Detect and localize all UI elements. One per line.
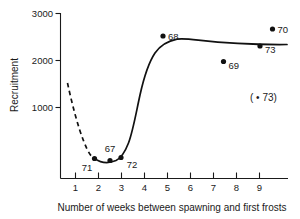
data-point-71[interactable]: 71 [82, 156, 97, 173]
data-dot-69[interactable] [221, 59, 226, 64]
data-label-70: 70 [278, 24, 289, 35]
x-tick-label-8: 8 [234, 182, 239, 193]
data-point-67[interactable]: 67 [105, 143, 116, 163]
data-label-69: 69 [229, 60, 240, 71]
x-tick-label-1: 1 [73, 182, 78, 193]
recruitment-scatter-chart: 3000 2000 1000 Recruitment 1 2 3 4 5 6 7 [0, 0, 300, 219]
data-dot-68[interactable] [160, 33, 165, 38]
y-axis-tick-labels: 3000 2000 1000 [32, 8, 53, 113]
y-tick-label-1000: 1000 [32, 102, 53, 113]
data-label-67: 67 [105, 143, 116, 154]
data-point-72[interactable]: 72 [118, 155, 137, 170]
chart-figure: 3000 2000 1000 Recruitment 1 2 3 4 5 6 7 [0, 0, 300, 219]
x-tick-label-9: 9 [257, 182, 262, 193]
data-point-68[interactable]: 68 [160, 31, 178, 42]
y-tick-label-3000: 3000 [32, 8, 53, 19]
annotation-text-73: ( • 73) [250, 92, 277, 103]
x-tick-label-5: 5 [165, 182, 170, 193]
data-dot-67[interactable] [107, 158, 112, 163]
y-axis-ticks [56, 14, 61, 108]
x-tick-label-6: 6 [188, 182, 193, 193]
data-label-72: 72 [127, 159, 138, 170]
data-point-70[interactable]: 70 [270, 24, 288, 35]
x-tick-label-4: 4 [142, 182, 147, 193]
x-axis-title: Number of weeks between spawning and fir… [58, 202, 287, 213]
data-point-73[interactable]: 73 [257, 43, 275, 55]
data-dot-70[interactable] [270, 26, 275, 31]
data-label-68: 68 [168, 31, 179, 42]
data-point-69[interactable]: 69 [221, 59, 239, 71]
data-label-71: 71 [82, 162, 93, 173]
data-dot-71[interactable] [92, 156, 97, 161]
x-tick-label-7: 7 [211, 182, 216, 193]
annotation-parenthesised-73: ( • 73) [250, 92, 277, 103]
y-tick-label-2000: 2000 [32, 55, 53, 66]
x-axis-ticks [76, 173, 260, 179]
x-axis-tick-labels: 1 2 3 4 5 6 7 8 9 [73, 182, 262, 193]
x-tick-label-2: 2 [96, 182, 101, 193]
data-dot-72[interactable] [118, 155, 123, 160]
y-axis-title: Recruitment [9, 58, 20, 112]
fitted-curve-dashed-segment [68, 83, 95, 159]
data-dot-73[interactable] [257, 43, 262, 48]
x-tick-label-3: 3 [119, 182, 124, 193]
data-label-73: 73 [265, 44, 276, 55]
